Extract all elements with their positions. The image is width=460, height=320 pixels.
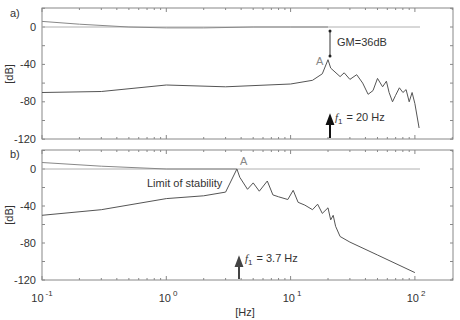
x-axis-labels: 10-1 100 101 102 [Hz] (31, 289, 426, 318)
panel-b-point-a-label: A (240, 155, 248, 167)
panel-a-ticks (42, 8, 453, 139)
panel-a-point-a-label: A (316, 55, 324, 67)
x-axis-title: [Hz] (235, 306, 255, 318)
panel-a-axes-box (42, 8, 453, 139)
panel-b-f1-arrow-icon (236, 258, 242, 279)
panel-b-upper-curve (42, 163, 237, 170)
xtick-label-0: 10-1 (31, 289, 53, 304)
panel-b-magnitude-curve (42, 169, 415, 273)
panel-b-label: b) (10, 148, 20, 160)
panel-a-ylabel: [dB] (3, 64, 15, 84)
panel-b-ytick-1: -40 (20, 200, 36, 212)
panel-a-ytick-0: 0 (30, 21, 36, 33)
panel-b-f1-label: f1= 3.7 Hz (245, 252, 298, 267)
panel-b: b) 0 -40 -80 -120 [dB] A Limit of stabil… (3, 148, 453, 286)
figure-canvas: a) 0 -40 -80 -120 [dB] GM=36dB A f1= 20 … (0, 0, 460, 320)
gm-top-dot (329, 30, 332, 33)
panel-b-ytick-0: 0 (30, 163, 36, 175)
panel-a-label: a) (10, 7, 20, 19)
gm-bottom-dot (329, 55, 332, 58)
xtick-label-2: 101 (283, 289, 302, 304)
panel-b-ytick-3: -120 (14, 274, 36, 286)
xtick-label-3: 102 (407, 289, 426, 304)
panel-b-ylabel: [dB] (3, 205, 15, 225)
limit-of-stability-label: Limit of stability (147, 177, 223, 189)
xtick-label-1: 100 (159, 289, 178, 304)
panel-a-f1-arrow-icon (327, 116, 333, 138)
bode-figure: a) 0 -40 -80 -120 [dB] GM=36dB A f1= 20 … (0, 0, 460, 320)
gain-margin-label: GM=36dB (337, 36, 387, 48)
panel-a-ytick-2: -80 (20, 95, 36, 107)
panel-b-ytick-2: -80 (20, 237, 36, 249)
panel-a-ytick-3: -120 (14, 133, 36, 145)
panel-a-ytick-1: -40 (20, 58, 36, 70)
panel-a-f1-label: f1= 20 Hz (335, 111, 385, 126)
panel-a: a) 0 -40 -80 -120 [dB] GM=36dB A f1= 20 … (3, 7, 453, 145)
